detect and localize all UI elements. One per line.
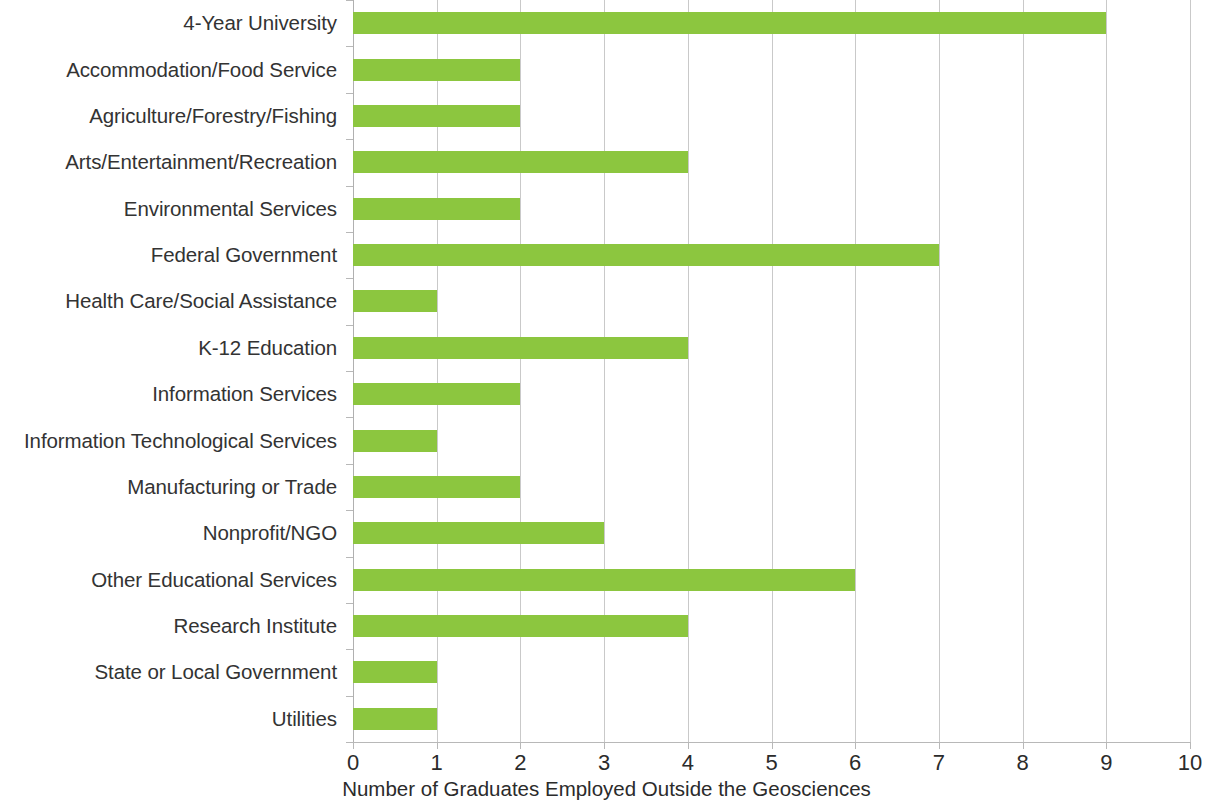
y-axis-category-label: Manufacturing or Trade (127, 477, 337, 498)
y-axis-tick (346, 603, 353, 604)
bar (353, 12, 1106, 34)
y-axis-category-label: Information Technological Services (24, 431, 337, 452)
bar (353, 105, 520, 127)
y-axis-category-label: Health Care/Social Assistance (65, 291, 337, 312)
y-axis-tick (346, 93, 353, 94)
x-axis-tick-label: 0 (347, 752, 359, 774)
gridline (772, 0, 773, 742)
y-axis-category-label: K-12 Education (198, 338, 337, 359)
x-axis-tick-label: 10 (1178, 752, 1202, 774)
bar (353, 430, 437, 452)
x-axis-tick-label: 3 (598, 752, 610, 774)
bar (353, 569, 855, 591)
y-axis-tick (346, 417, 353, 418)
y-axis-tick (346, 464, 353, 465)
x-axis-tick (520, 743, 521, 749)
bar (353, 244, 939, 266)
y-axis-category-label: Arts/Entertainment/Recreation (65, 152, 337, 173)
x-axis-tick-label: 7 (933, 752, 945, 774)
x-axis-tick-label: 9 (1100, 752, 1112, 774)
x-axis-tick (437, 743, 438, 749)
y-axis-category-labels: 4-Year UniversityAccommodation/Food Serv… (0, 0, 345, 742)
y-axis-tick (346, 139, 353, 140)
bar (353, 476, 520, 498)
y-axis-category-label: State or Local Government (95, 662, 338, 683)
y-axis-category-label: Utilities (272, 709, 337, 730)
x-axis-tick-label: 6 (849, 752, 861, 774)
plot-area (353, 0, 1191, 742)
bar (353, 337, 688, 359)
x-axis-tick (855, 743, 856, 749)
x-axis-tick-label: 8 (1016, 752, 1028, 774)
x-axis-tick (1190, 743, 1191, 749)
bar (353, 661, 437, 683)
gridline (939, 0, 940, 742)
y-axis-category-label: Other Educational Services (91, 570, 337, 591)
y-axis-category-label: Agriculture/Forestry/Fishing (89, 106, 337, 127)
y-axis-tick (346, 371, 353, 372)
y-axis-tick (346, 696, 353, 697)
bar (353, 708, 437, 730)
y-axis-tick (346, 0, 353, 1)
y-axis-tick (346, 557, 353, 558)
x-axis-title: Number of Graduates Employed Outside the… (0, 779, 1213, 800)
y-axis-category-label: Federal Government (151, 245, 337, 266)
gridline (688, 0, 689, 742)
bar (353, 522, 604, 544)
y-axis-tick (346, 46, 353, 47)
y-axis-category-label: Accommodation/Food Service (66, 60, 337, 81)
gridline (1106, 0, 1107, 742)
gridline (1190, 0, 1191, 742)
y-axis-tick (346, 325, 353, 326)
gridline (855, 0, 856, 742)
y-axis-category-label: Nonprofit/NGO (203, 523, 337, 544)
bar-chart: 4-Year UniversityAccommodation/Food Serv… (0, 0, 1213, 802)
y-axis-tick (346, 278, 353, 279)
bar (353, 151, 688, 173)
bar (353, 59, 520, 81)
x-axis-tick (1023, 743, 1024, 749)
x-axis-tick (688, 743, 689, 749)
bar (353, 615, 688, 637)
bar (353, 198, 520, 220)
x-axis-tick-label: 1 (431, 752, 443, 774)
x-axis-tick (772, 743, 773, 749)
y-axis-tick (346, 232, 353, 233)
x-axis-tick-label: 5 (765, 752, 777, 774)
y-axis-category-label: Research Institute (174, 616, 337, 637)
x-axis-tick (939, 743, 940, 749)
y-axis-category-label: Environmental Services (124, 199, 337, 220)
y-axis-category-label: Information Services (152, 384, 337, 405)
y-axis-tick (346, 510, 353, 511)
x-axis-tick (1106, 743, 1107, 749)
gridline (1023, 0, 1024, 742)
y-axis-tick (346, 186, 353, 187)
y-axis-tick (346, 742, 353, 743)
x-axis-tick (604, 743, 605, 749)
x-axis-tick (353, 743, 354, 749)
x-axis-tick-label: 2 (514, 752, 526, 774)
bar (353, 290, 437, 312)
y-axis-tick (346, 649, 353, 650)
x-axis-tick-label: 4 (682, 752, 694, 774)
y-axis-category-label: 4-Year University (183, 13, 337, 34)
bar (353, 383, 520, 405)
